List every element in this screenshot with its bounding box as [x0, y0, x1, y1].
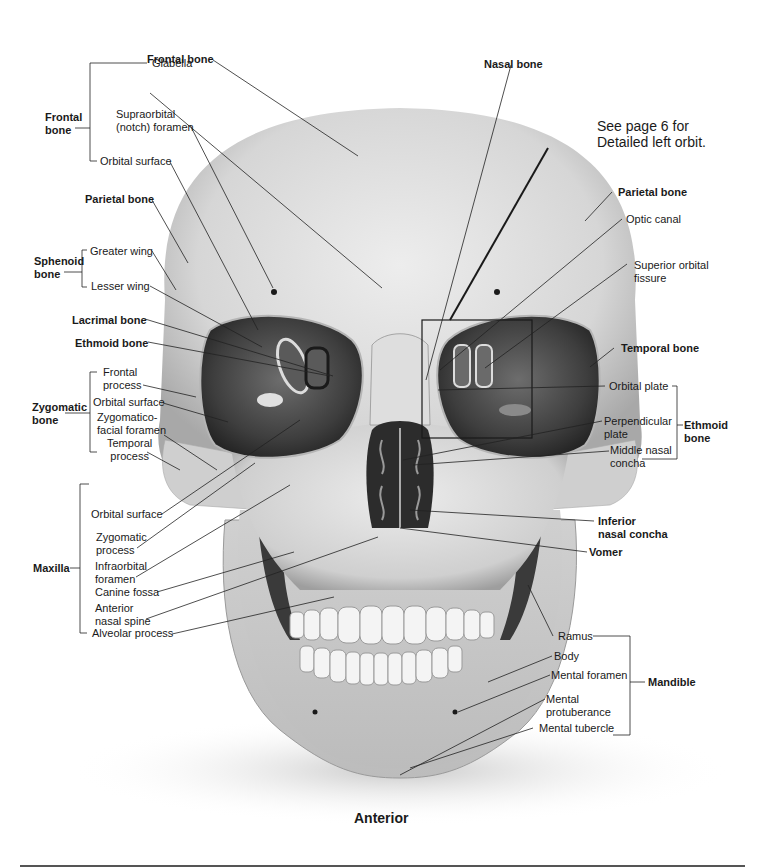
label-zygomatic-bone-group: Zygomatic bone [32, 401, 87, 427]
note-see-page-6: See page 6 for Detailed left orbit. [597, 118, 706, 150]
orbit-left [200, 316, 362, 458]
label-supraorbital-foramen: Supraorbital (notch) foramen [116, 108, 194, 134]
skull-anterior-diagram: Frontal bone Nasal bone See page 6 for D… [0, 0, 766, 868]
label-ethmoid-bone-group: Ethmoid bone [684, 419, 728, 445]
label-glabella: Glabella [152, 57, 192, 70]
label-temporal-process: Temporal process [107, 437, 152, 463]
label-orbital-plate: Orbital plate [609, 380, 668, 393]
page-bottom-rule [20, 865, 745, 867]
label-middle-nasal-concha: Middle nasal concha [610, 444, 672, 470]
label-canine-fossa: Canine fossa [95, 586, 159, 599]
label-infraorbital-foramen: Infraorbital foramen [95, 560, 147, 586]
label-parietal-bone-left: Parietal bone [85, 193, 154, 206]
label-parietal-bone-right: Parietal bone [618, 186, 687, 199]
label-anterior-nasal-spine: Anterior nasal spine [95, 602, 151, 628]
label-ethmoid-bone-left: Ethmoid bone [75, 337, 148, 350]
label-alveolar-process: Alveolar process [92, 627, 173, 640]
label-optic-canal: Optic canal [626, 213, 681, 226]
label-perpendicular-plate: Perpendicular plate [604, 415, 672, 441]
label-maxilla-group: Maxilla [33, 562, 70, 575]
label-orbital-surface-frontal: Orbital surface [100, 155, 172, 168]
label-frontal-process: Frontal process [103, 366, 142, 392]
label-vomer: Vomer [589, 546, 622, 559]
label-sphenoid-bone-group: Sphenoid bone [34, 255, 84, 281]
label-nasal-bone: Nasal bone [484, 58, 543, 71]
label-ramus: Ramus [558, 630, 593, 643]
label-mandible-group: Mandible [648, 676, 696, 689]
view-caption: Anterior [354, 810, 408, 826]
label-zygomatic-process: Zygomatic process [96, 531, 147, 557]
label-body: Body [554, 650, 579, 663]
label-temporal-bone: Temporal bone [621, 342, 699, 355]
label-lesser-wing: Lesser wing [91, 280, 150, 293]
label-lacrimal-bone: Lacrimal bone [72, 314, 147, 327]
supraorbital-foramen-left [271, 289, 277, 295]
label-orbital-surface-zygomatic: Orbital surface [93, 396, 165, 409]
label-frontal-bone-group: Frontal bone [45, 111, 82, 137]
supraorbital-foramen-right [494, 289, 500, 295]
label-zygomaticofacial-foramen: Zygomatico- facial foramen [97, 411, 166, 437]
label-mental-foramen: Mental foramen [551, 669, 627, 682]
label-greater-wing: Greater wing [90, 245, 153, 258]
nasal-bone-shape [370, 334, 430, 425]
label-orbital-surface-maxilla: Orbital surface [91, 508, 163, 521]
label-superior-orbital-fissure: Superior orbital fissure [634, 259, 709, 285]
label-mental-protuberance: Mental protuberance [546, 693, 611, 719]
label-mental-tubercle: Mental tubercle [539, 722, 614, 735]
label-inferior-nasal-concha: Inferior nasal concha [598, 515, 668, 541]
